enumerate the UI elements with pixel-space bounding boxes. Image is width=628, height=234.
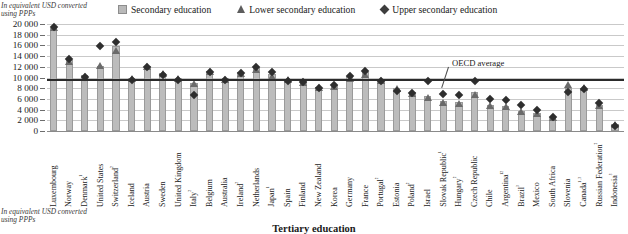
y-axis-tick-label: 18 000 (13, 30, 38, 40)
x-axis-label: Germany (345, 133, 354, 207)
bar-group (78, 24, 94, 131)
chart-figure: In equivalent USD converted using PPPs S… (0, 0, 628, 234)
bar-secondary-education (97, 66, 104, 131)
x-axis-label: Switzerland² (109, 133, 120, 207)
y-axis-tick-label: 12 000 (13, 62, 38, 72)
x-axis-label: Netherlands (252, 133, 261, 207)
bar-secondary-education (346, 76, 353, 131)
bar-group (312, 24, 328, 131)
chart-legend: Secondary educationLower secondary educa… (118, 1, 628, 17)
bar-group (125, 24, 141, 131)
bar-secondary-education (284, 79, 291, 131)
x-axis-label: Poland² (406, 133, 417, 207)
x-axis-label: Brazil³ (515, 133, 526, 207)
bar-group (203, 24, 219, 131)
x-axis-label: Czech Republic (470, 133, 479, 207)
bar-group (47, 24, 63, 131)
y-axis-tick-label: 6 000 (17, 94, 38, 104)
y-axis-tick-mark (40, 88, 45, 89)
bar-group (234, 24, 250, 131)
bar-group (359, 24, 375, 131)
data-series-layer (47, 24, 624, 131)
bar-group (468, 24, 484, 131)
x-axis-label: Austria (142, 133, 151, 207)
bar-group (484, 24, 500, 131)
bar-group (343, 24, 359, 131)
x-axis-label: Mexico (532, 133, 541, 207)
legend-label: Lower secondary education (249, 4, 355, 15)
x-axis-label: Australia (220, 133, 229, 207)
x-axis-label: Slovak Republic¹ (437, 133, 448, 207)
y-axis-tick-label: 4 000 (17, 105, 38, 115)
bar-group (577, 24, 593, 131)
bar-secondary-education (175, 78, 182, 131)
y-axis-tick-mark (40, 35, 45, 36)
x-axis-label: Korea (330, 133, 339, 207)
bar-secondary-education (253, 67, 260, 131)
bar-group (546, 24, 562, 131)
y-axis-tick-label: 14 000 (13, 51, 38, 61)
legend-item-upper_secondary: Upper secondary education (381, 4, 497, 15)
x-axis-label: Portugal² (375, 133, 386, 207)
y-axis-tick-label: 16 000 (13, 40, 38, 50)
bar-secondary-education (112, 46, 119, 131)
x-axis-label: Iceland (127, 133, 136, 207)
bar-group (452, 24, 468, 131)
y-axis-tick-mark (40, 131, 45, 132)
bar-secondary-education (268, 74, 275, 131)
bar-group (109, 24, 125, 131)
oecd-average-line (47, 79, 624, 81)
y-axis-tick-label: 2 000 (17, 115, 38, 125)
x-axis-label: Luxembourg (49, 133, 58, 207)
y-axis-tick-label: 10 000 (13, 73, 38, 83)
bar-secondary-education (424, 96, 431, 131)
bar-secondary-education (471, 92, 478, 131)
x-axis-label: Sweden (158, 133, 167, 207)
marker-upper-secondary-education (439, 90, 448, 99)
x-axis-label: Estonia (392, 133, 401, 207)
y-axis-tick-mark (40, 67, 45, 68)
diamond-marker-icon (380, 4, 390, 14)
square-marker-icon (118, 5, 127, 14)
bar-secondary-education (159, 73, 166, 131)
bar-group (265, 24, 281, 131)
y-axis-tick-mark (40, 110, 45, 111)
bar-group (94, 24, 110, 131)
x-axis-label: Finland (298, 133, 307, 207)
bar-secondary-education (409, 92, 416, 131)
x-axis-label: United States (96, 133, 105, 207)
bar-group (156, 24, 172, 131)
legend-item-secondary: Secondary education (118, 4, 211, 15)
y-axis-tick-mark (40, 56, 45, 57)
bar-secondary-education (81, 75, 88, 131)
bar-group (281, 24, 297, 131)
x-axis-label: Chile (485, 133, 494, 207)
y-axis-tick-label: 0 (33, 126, 38, 136)
legend-label: Secondary education (131, 4, 211, 15)
marker-upper-secondary-education (455, 91, 464, 100)
y-axis-tick-mark (40, 120, 45, 121)
panel2-title: Tertiary education (0, 223, 628, 234)
x-axis-label: France (361, 133, 370, 207)
y-axis-tick-label: 20 000 (13, 19, 38, 29)
y-axis-tick-mark (40, 78, 45, 79)
marker-lower-secondary-education (455, 100, 463, 107)
y-axis-tick-mark (40, 45, 45, 46)
bar-group (390, 24, 406, 131)
x-axis-label: Israel (423, 133, 432, 207)
y-axis-unit-note-top: In equivalent USD converted using PPPs (1, 2, 97, 19)
bar-group (219, 24, 235, 131)
x-axis-label: Italy² (187, 133, 198, 207)
x-axis-label: Spain (283, 133, 292, 207)
bar-secondary-education (331, 85, 338, 131)
x-axis-label: Indonesia³ (609, 133, 620, 207)
plot-area (47, 24, 624, 131)
bar-secondary-education (128, 78, 135, 131)
x-axis-label: South Africa (548, 133, 557, 207)
bar-group (172, 24, 188, 131)
x-axis-label: Hungary² (453, 133, 464, 207)
bar-group (562, 24, 578, 131)
legend-item-lower_secondary: Lower secondary education (237, 4, 355, 15)
bar-secondary-education (377, 80, 384, 131)
x-axis-label: Norway (64, 133, 73, 207)
